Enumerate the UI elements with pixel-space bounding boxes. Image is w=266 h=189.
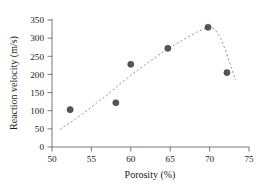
y-tick-label: 0 <box>39 142 44 152</box>
y-tick-label: 300 <box>30 33 44 43</box>
x-tick-label: 60 <box>126 154 136 164</box>
y-tick-labels: 350 300 250 200 150 100 50 0 <box>30 15 44 152</box>
data-point <box>205 24 211 30</box>
chart-figure: 350 300 250 200 150 100 50 0 50 55 60 65… <box>0 0 266 189</box>
data-point <box>224 70 230 76</box>
x-tick-label: 70 <box>205 154 215 164</box>
x-tick-label: 50 <box>47 154 57 164</box>
x-tick-label: 55 <box>87 154 97 164</box>
data-point-group <box>67 24 230 113</box>
data-point <box>67 107 73 113</box>
y-tick-label: 150 <box>30 88 44 98</box>
scatter-plot: 350 300 250 200 150 100 50 0 50 55 60 65… <box>0 0 266 189</box>
data-point <box>165 45 171 51</box>
x-tick-label: 75 <box>244 154 254 164</box>
y-tick-label: 100 <box>30 106 44 116</box>
y-tick-label: 200 <box>30 70 44 80</box>
fitted-trend-curve <box>60 27 236 129</box>
x-axis-title: Porosity (%) <box>125 169 176 181</box>
y-tick-label: 250 <box>30 52 44 62</box>
x-tick-marks <box>52 147 249 152</box>
x-tick-label: 65 <box>166 154 176 164</box>
y-axis-title: Reaction velocity (m/s) <box>8 36 20 130</box>
y-tick-label: 50 <box>35 124 45 134</box>
data-point <box>113 100 119 106</box>
y-tick-label: 350 <box>30 15 44 25</box>
data-point <box>128 61 134 67</box>
y-tick-marks <box>48 20 53 147</box>
x-tick-labels: 50 55 60 65 70 75 <box>47 154 254 164</box>
